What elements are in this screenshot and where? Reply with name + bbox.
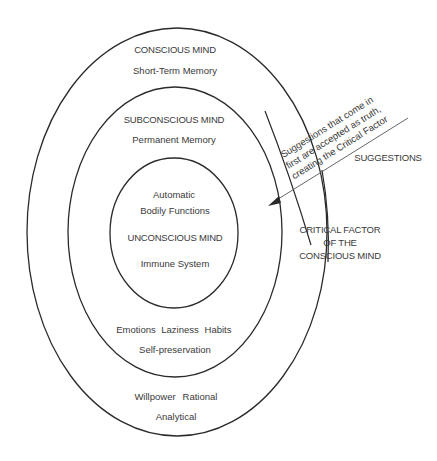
analytical-label: Analytical [156,411,197,422]
subconscious-mind-title: SUBCONSCIOUS MIND [124,114,225,125]
diagonal-explanation: Suggestions that come in first are accep… [277,93,390,181]
suggestions-arrow-head-icon [268,196,281,206]
permanent-memory-label: Permanent Memory [132,134,216,145]
laziness-label: Laziness [161,324,199,335]
suggestions-label: SUGGESTIONS [354,152,421,163]
unconscious-mind-title: UNCONSCIOUS MIND [128,232,223,243]
automatic-label: Automatic [153,189,195,200]
critical-factor-label-line-1: CRITICAL FACTOR [300,224,381,235]
critical-factor-label-line-2: OF THE [323,237,356,248]
emotions-label: Emotions [116,324,156,335]
critical-factor-label-line-3: CONSCIOUS MIND [299,250,381,261]
habits-label: Habits [205,324,232,335]
rational-label: Rational [183,391,218,402]
willpower-label: Willpower [134,391,175,402]
self-preservation-label: Self-preservation [139,344,211,355]
bodily-functions-label: Bodily Functions [140,205,210,216]
mind-model-diagram: CONSCIOUS MIND Short-Term Memory SUBCONS… [0,0,437,461]
immune-system-label: Immune System [141,258,210,269]
short-term-memory-label: Short-Term Memory [133,65,217,76]
conscious-mind-title: CONSCIOUS MIND [134,44,216,55]
